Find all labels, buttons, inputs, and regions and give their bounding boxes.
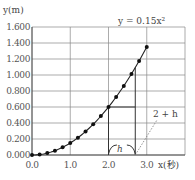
data-point xyxy=(84,129,88,133)
data-point xyxy=(107,105,111,109)
two-plus-h-label: 2 + h xyxy=(153,109,178,119)
y-tick: 0.800 xyxy=(6,86,30,96)
y-tick: 1.600 xyxy=(6,22,30,32)
y-tick: 1.400 xyxy=(6,38,30,48)
x-tick: 0.0 xyxy=(25,160,39,170)
y-tick: 0.000 xyxy=(6,150,30,160)
data-point xyxy=(114,95,118,99)
data-point xyxy=(122,84,126,88)
data-point xyxy=(91,122,95,126)
y-tick: 0.400 xyxy=(6,118,30,128)
x-axis-label: x(秒) xyxy=(158,159,179,170)
y-tick: 0.200 xyxy=(6,134,30,144)
y-tick: 1.200 xyxy=(6,54,30,64)
guide-lines xyxy=(109,68,158,155)
x-tick: 2.0 xyxy=(102,160,116,170)
equation-label: y = 0.15x² xyxy=(117,16,165,26)
data-point xyxy=(61,145,65,149)
data-point xyxy=(53,149,57,153)
data-point xyxy=(145,45,149,49)
x-tick: 1.0 xyxy=(64,160,78,170)
data-point xyxy=(68,141,72,145)
data-point xyxy=(99,114,103,118)
data-point xyxy=(45,151,49,155)
y-axis-label: y(m) xyxy=(2,5,24,15)
data-point xyxy=(76,136,80,140)
x-tick: 3.0 xyxy=(140,160,154,170)
data-series xyxy=(30,45,149,157)
chart: 0.0000.2000.4000.6000.8001.0001.2001.400… xyxy=(0,0,195,180)
data-point xyxy=(38,153,42,157)
data-point xyxy=(30,153,34,157)
data-point xyxy=(129,72,133,76)
y-tick-labels: 0.0000.2000.4000.6000.8001.0001.2001.400… xyxy=(6,22,30,160)
data-point xyxy=(137,59,141,63)
y-tick: 1.000 xyxy=(6,70,30,80)
x-tick-labels: 0.01.02.03.0 xyxy=(25,160,154,170)
y-tick: 0.600 xyxy=(6,102,30,112)
h-label: h xyxy=(117,144,123,154)
